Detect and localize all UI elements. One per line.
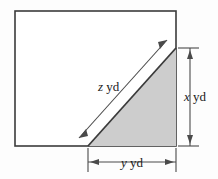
y-unit: yd bbox=[130, 155, 144, 170]
geometry-diagram: z yd x yd y yd bbox=[0, 0, 218, 179]
x-arrowhead-top bbox=[187, 50, 193, 59]
y-dimension-label: y yd bbox=[119, 155, 144, 170]
x-dimension-label: x yd bbox=[183, 89, 207, 104]
x-unit: yd bbox=[193, 89, 207, 104]
y-arrowhead-left bbox=[90, 159, 99, 165]
z-unit: yd bbox=[106, 79, 120, 94]
x-arrowhead-bottom bbox=[187, 135, 193, 144]
z-dimension-label: z yd bbox=[97, 79, 120, 94]
figure-container: z yd x yd y yd bbox=[0, 0, 218, 179]
y-arrowhead-right bbox=[165, 159, 174, 165]
